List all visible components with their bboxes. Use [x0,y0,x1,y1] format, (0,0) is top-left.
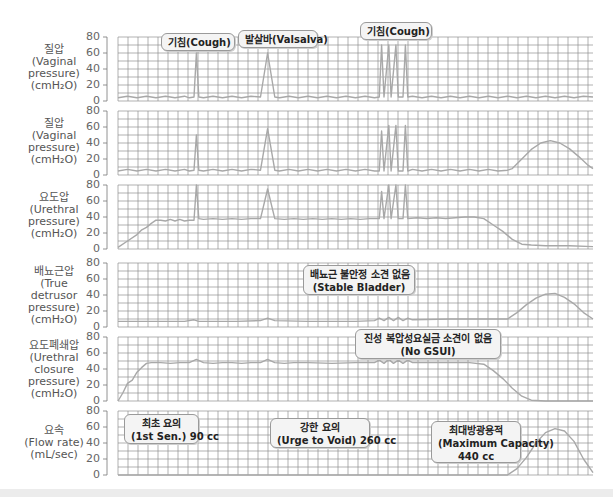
panel-vaginal2 [103,111,593,175]
callout-urge-to-void: 강한 요의 (Urge to Void) 260 cc [270,418,370,448]
y-tick-label: 80 [72,331,100,342]
y-tick-label: 80 [72,31,100,42]
y-tick-label: 60 [72,121,100,132]
callout-text-ko: 최대방광용적 [438,424,514,437]
callout-text: 기침(Cough) [168,37,231,48]
callout-text-ko: 배뇨근 불안정 소견 없음 [310,268,408,281]
y-tick-label: 60 [72,273,100,284]
callout-text-ko: 최초 요의 [131,417,192,430]
trace-urethral [118,185,593,247]
y-tick-label: 20 [72,305,100,316]
callout-text-en: (Maximum Capacity) [438,437,514,450]
callout-maximum-capacity: 최대방광용적 (Maximum Capacity) 440 cc [431,421,521,463]
panel-closure [103,337,593,401]
callout-first-sensation: 최초 요의 (1st Sen.) 90 cc [124,414,199,444]
y-tick-label: 20 [72,379,100,390]
y-tick-label: 20 [72,227,100,238]
y-tick-label: 60 [72,347,100,358]
y-tick-label: 40 [72,211,100,222]
callout-no-gsui: 진성 복압성요실금 소견이 없음 (No GSUI) [355,329,501,359]
callout-stable-bladder: 배뇨근 불안정 소견 없음 (Stable Bladder) [303,265,415,295]
panel-urethral [103,185,593,249]
callout-text-en: (Stable Bladder) [310,281,408,294]
callout-valsalva: 발살바(Valsalva) [238,30,318,48]
callout-text-en: (No GSUI) [362,345,494,358]
y-tick-label: 40 [72,363,100,374]
callout-text-en: (Urge to Void) 260 cc [277,434,363,447]
y-tick-label: 0 [72,469,100,480]
y-tick-label: 60 [72,47,100,58]
callout-cough-2: 기침(Cough) [360,22,432,40]
bottom-divider [0,489,613,497]
callout-text-ko: 진성 복압성요실금 소견이 없음 [362,332,494,345]
y-tick-label: 80 [72,257,100,268]
y-tick-label: 80 [72,179,100,190]
y-tick-label: 20 [72,153,100,164]
urodynamic-chart: 질압 (Vaginal pressure) (cmH₂O) 질압 (Vagina… [0,0,613,497]
y-tick-label: 80 [72,105,100,116]
y-tick-label: 60 [72,421,100,432]
y-tick-label: 80 [72,405,100,416]
y-tick-label: 20 [72,453,100,464]
trace-vaginal2 [118,125,593,171]
y-tick-label: 40 [72,289,100,300]
callout-text-volume: 440 cc [438,450,514,463]
trace-closure [118,359,593,401]
callout-text: 발살바(Valsalva) [245,34,328,45]
y-tick-label: 40 [72,63,100,74]
trace-detrusor [118,293,593,321]
callout-text-en: (1st Sen.) 90 cc [131,430,192,443]
y-tick-label: 0 [72,243,100,254]
y-tick-label: 20 [72,79,100,90]
y-tick-label: 40 [72,137,100,148]
callout-text: 기침(Cough) [367,26,430,37]
callout-text-ko: 강한 요의 [277,421,363,434]
callout-cough-1: 기침(Cough) [161,33,235,51]
y-tick-label: 60 [72,195,100,206]
y-tick-label: 40 [72,437,100,448]
